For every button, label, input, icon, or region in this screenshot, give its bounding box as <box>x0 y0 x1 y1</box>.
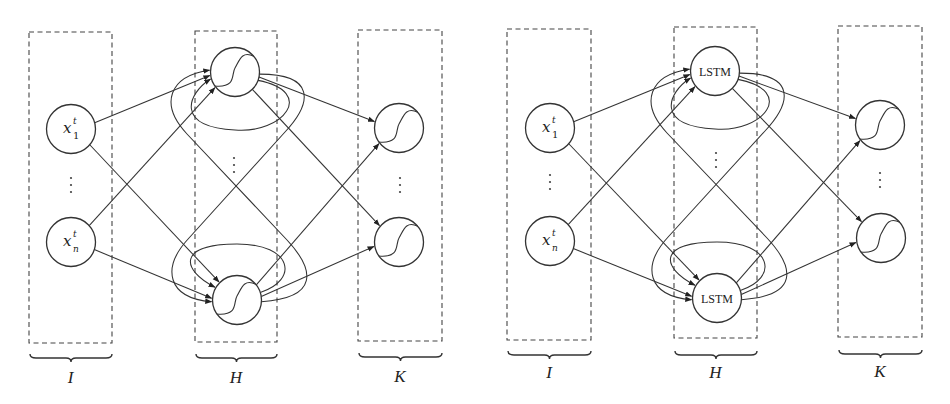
layer-box-i <box>507 29 591 340</box>
input-symbol: x <box>63 232 72 250</box>
input-superscript: t <box>73 116 77 126</box>
layer-label-i: I <box>545 363 553 382</box>
brace-k <box>359 353 442 361</box>
input-symbol: x <box>542 231 551 249</box>
vertical-ellipsis-icon <box>549 174 551 190</box>
vertical-ellipsis-icon <box>233 157 235 173</box>
vertical-ellipsis-icon <box>715 152 717 168</box>
input-node-x1: xt1 <box>526 104 575 153</box>
edge-xn-to-h1 <box>89 88 215 226</box>
layer-label-k: K <box>873 362 887 381</box>
layer-label-h: H <box>229 368 244 387</box>
lstm-cell-label: LSTM <box>701 292 733 306</box>
input-symbol: x <box>63 119 72 137</box>
brace-i <box>30 354 112 362</box>
input-subscript: 1 <box>552 129 558 140</box>
edge-hn-to-kn <box>261 246 374 296</box>
hidden-node-hn: LSTM <box>693 274 742 323</box>
vertical-ellipsis-icon <box>399 177 401 193</box>
input-subscript: n <box>73 244 79 254</box>
output-node-kn <box>857 214 906 263</box>
input-subscript: 1 <box>73 130 79 141</box>
input-superscript: t <box>552 228 556 238</box>
brace-k <box>839 350 922 358</box>
rnn-vs-lstm-diagram: IHKxt1xtn IHKxt1xtnLSTMLSTM <box>0 0 950 404</box>
edge-x1-to-hn <box>90 145 219 282</box>
output-node-k1 <box>375 104 424 153</box>
input-superscript: t <box>552 115 556 125</box>
vertical-ellipsis-icon <box>879 172 881 188</box>
brace-h <box>196 354 277 362</box>
input-subscript: n <box>552 243 558 253</box>
hidden-node-h1 <box>211 48 260 97</box>
connections <box>568 69 861 300</box>
edge-h1-to-kn <box>252 89 379 225</box>
panel-simple-rnn: IHKxt1xtn <box>29 30 442 387</box>
layer-box-k <box>838 26 922 337</box>
layer-label-i: I <box>67 368 75 387</box>
layer-box-i <box>29 32 112 343</box>
output-node-k1 <box>856 101 905 150</box>
edge-hn-to-k1 <box>256 144 379 285</box>
edge-hn-to-k1 <box>736 141 860 283</box>
input-node-xn: xtn <box>47 218 96 267</box>
edge-xn-to-h1 <box>568 87 695 225</box>
input-superscript: t <box>73 229 77 239</box>
vertical-ellipsis-icon <box>70 177 72 193</box>
input-node-xn: xtn <box>526 217 575 266</box>
connections <box>89 70 379 302</box>
hidden-node-hn <box>213 276 262 325</box>
brace-h <box>675 351 757 359</box>
edge-h1-to-kn <box>732 88 861 221</box>
output-node-kn <box>375 218 424 267</box>
edge-x1-to-hn <box>569 144 699 280</box>
panel-lstm-rnn: IHKxt1xtnLSTMLSTM <box>507 26 922 382</box>
layer-label-h: H <box>708 363 723 382</box>
input-node-x1: xt1 <box>47 105 96 154</box>
lstm-cell-label: LSTM <box>699 65 731 79</box>
input-symbol: x <box>542 118 551 136</box>
brace-i <box>508 351 591 359</box>
layer-label-k: K <box>393 367 407 386</box>
hidden-node-h1: LSTM <box>691 47 740 96</box>
edge-hn-to-kn <box>741 242 856 294</box>
